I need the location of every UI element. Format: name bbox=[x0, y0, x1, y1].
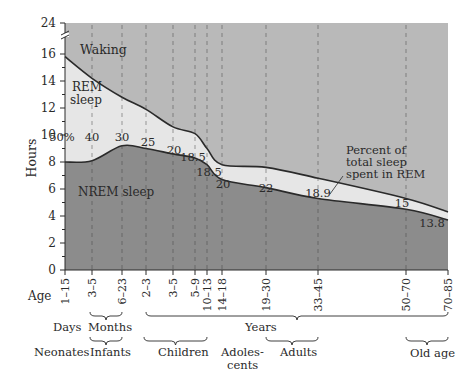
months-brace bbox=[90, 312, 122, 320]
rem-region-label-line1: REM bbox=[72, 80, 102, 94]
rem-percent-label: 20 bbox=[167, 143, 182, 157]
rem-percent-label: 30 bbox=[115, 130, 130, 144]
rem-percent-label: 22 bbox=[259, 181, 274, 195]
x-tick-label: 50–70 bbox=[400, 278, 413, 312]
x-tick-label: 3–5 bbox=[86, 278, 99, 298]
x-tick-label: 19–30 bbox=[260, 278, 273, 312]
rem-percent-label: 50% bbox=[49, 130, 75, 144]
y-tick-label: 16 bbox=[41, 47, 56, 61]
stage-adults: Adults bbox=[279, 345, 317, 359]
stage-old-age: Old age bbox=[410, 346, 455, 360]
y-tick-label: 14 bbox=[41, 74, 57, 88]
x-tick-label: 33–45 bbox=[312, 278, 325, 312]
age-axis-title: Age bbox=[27, 289, 51, 303]
rem-percent-label: 15 bbox=[395, 196, 410, 210]
rem-percent-label: 40 bbox=[85, 130, 100, 144]
children-brace bbox=[144, 337, 207, 345]
annotation-line3: spent in REM bbox=[346, 167, 426, 181]
old-age-brace bbox=[406, 337, 448, 345]
stage-infants: Infants bbox=[90, 345, 131, 359]
rem-percent-label: 20 bbox=[216, 177, 231, 191]
y-tick-label: 12 bbox=[41, 101, 56, 115]
y-tick-label: 2 bbox=[48, 236, 56, 250]
x-tick-label: 10–13 bbox=[201, 278, 214, 312]
y-axis-title: Hours bbox=[24, 139, 39, 178]
stage-neonates: Neonates bbox=[34, 345, 89, 359]
nrem-region-label: NREM sleep bbox=[78, 185, 155, 199]
y-tick-label: 24 bbox=[41, 16, 57, 30]
x-tick-label: 14–18 bbox=[216, 278, 229, 312]
stage-children: Children bbox=[158, 345, 209, 359]
y-tick-label: 6 bbox=[48, 182, 56, 196]
adults-brace bbox=[266, 337, 318, 345]
y-tick-label: 0 bbox=[48, 263, 56, 277]
years-brace bbox=[146, 312, 448, 320]
rem-percent-label: 18.5 bbox=[180, 150, 206, 164]
infants-brace bbox=[90, 337, 122, 345]
unit-months: Months bbox=[88, 320, 132, 334]
rem-percent-label: 25 bbox=[141, 135, 156, 149]
unit-years: Years bbox=[244, 320, 277, 334]
waking-region-label: Waking bbox=[80, 42, 127, 57]
x-tick-label: 2–3 bbox=[140, 278, 153, 298]
x-tick-label: 70–85 bbox=[442, 278, 455, 312]
y-tick-label: 8 bbox=[48, 155, 56, 169]
rem-percent-label: 13.8 bbox=[419, 216, 445, 230]
stage-adolescents-line2: cents bbox=[227, 358, 258, 372]
x-tick-label: 1–15 bbox=[59, 278, 72, 305]
rem-percent-label: 18.9 bbox=[305, 186, 331, 200]
sleep-by-age-chart: 0246810121416241–153–56–232–33–55–910–13… bbox=[0, 0, 474, 391]
x-tick-label: 3–5 bbox=[167, 278, 180, 298]
stage-adolescents-line1: Adoles- bbox=[220, 345, 264, 359]
unit-days: Days bbox=[53, 320, 82, 334]
rem-region-label-line2: sleep bbox=[70, 93, 102, 107]
y-tick-label: 4 bbox=[48, 209, 56, 223]
x-tick-label: 6–23 bbox=[116, 278, 129, 305]
